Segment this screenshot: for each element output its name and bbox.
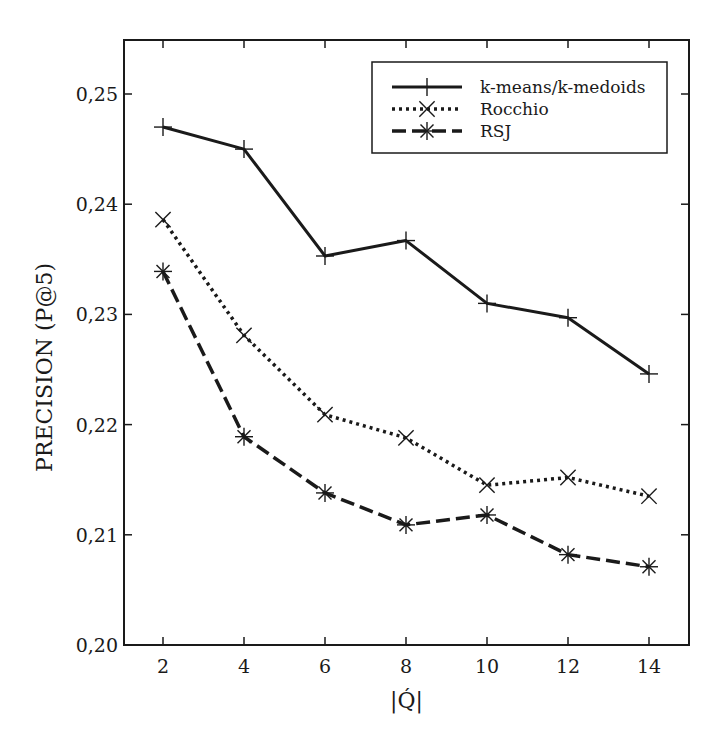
series-rocchio <box>155 212 656 504</box>
x-tick-label: 8 <box>400 655 412 677</box>
y-axis-title: PRECISION (P@5) <box>32 263 57 472</box>
data-point <box>640 365 658 383</box>
data-point <box>316 484 334 502</box>
y-tick-label: 0,24 <box>76 193 118 215</box>
series-line <box>163 127 649 374</box>
y-tick-label: 0,21 <box>76 524 118 546</box>
legend-label: RSJ <box>480 121 511 141</box>
data-point <box>478 506 496 524</box>
data-point <box>559 309 577 327</box>
y-tick-label: 0,22 <box>76 414 118 436</box>
x-tick-label: 12 <box>556 655 580 677</box>
y-tick-label: 0,23 <box>76 303 118 325</box>
data-point <box>154 118 172 136</box>
data-point <box>559 546 577 564</box>
legend-marker <box>418 122 436 140</box>
x-tick-label: 4 <box>238 655 250 677</box>
y-tick-label: 0,25 <box>76 83 118 105</box>
data-point <box>154 262 172 280</box>
data-point <box>640 558 658 576</box>
data-point <box>235 428 253 446</box>
data-point <box>236 328 251 343</box>
x-tick-label: 10 <box>475 655 499 677</box>
data-point <box>397 516 415 534</box>
series-rsj <box>154 262 658 575</box>
data-point <box>479 478 494 493</box>
data-point <box>155 212 170 227</box>
data-point <box>398 430 413 445</box>
data-point <box>641 489 656 504</box>
x-tick-label: 14 <box>637 655 661 677</box>
x-tick-label: 6 <box>319 655 331 677</box>
series-k-means-k-medoids <box>154 118 658 383</box>
y-tick-label: 0,20 <box>76 634 118 656</box>
legend-label: k-means/k-medoids <box>480 77 646 97</box>
legend: k-means/k-medoidsRocchioRSJ <box>372 62 667 153</box>
series-line <box>163 220 649 497</box>
x-axis-title: |Q́| <box>390 688 423 714</box>
x-tick-label: 2 <box>157 655 169 677</box>
chart: 24681012140,200,210,220,230,240,25 |Q́| … <box>0 0 723 751</box>
legend-label: Rocchio <box>480 99 549 119</box>
series-layer <box>154 118 658 576</box>
